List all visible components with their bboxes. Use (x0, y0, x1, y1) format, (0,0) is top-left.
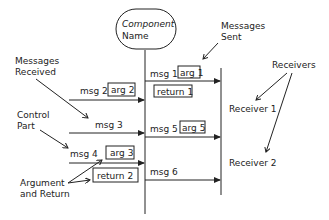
messages-sent-line1: Messages (221, 21, 265, 31)
argument-return-line1: Argument (20, 178, 65, 188)
arg2-label: arg 2 (111, 85, 134, 95)
arg3-label: arg 3 (110, 148, 133, 158)
messages-received-line1: Messages (15, 56, 59, 66)
component-name-line1: Component (122, 19, 175, 29)
receivers-label: Receivers (272, 60, 316, 70)
return1-label: return 1 (157, 87, 193, 97)
component-name-line2: Name (122, 31, 149, 41)
msg1-label: msg 1 (150, 69, 178, 79)
control-part-line2: Part (17, 121, 35, 131)
msg4-label: msg 4 (70, 149, 98, 159)
msg3-label: msg 3 (95, 120, 123, 130)
messages-sent-line2: Sent (221, 32, 242, 42)
msg6-label: msg 6 (150, 167, 178, 177)
argument-return-line2: and Return (20, 189, 70, 199)
arg5-label: arg 5 (182, 123, 205, 133)
control-part-line1: Control (17, 110, 50, 120)
return2-label: return 2 (97, 171, 133, 181)
component-diagram: Component Name msg 1 arg 1 return 1 msg … (0, 0, 329, 220)
msg5-label: msg 5 (150, 124, 178, 134)
arg1-label: arg 1 (180, 68, 203, 78)
receiver-2-label: Receiver 2 (229, 158, 277, 168)
msg2-label: msg 2 (80, 86, 108, 96)
component-node: Component Name (116, 9, 176, 49)
receiver-1-label: Receiver 1 (229, 104, 277, 114)
messages-received-line2: Received (15, 67, 56, 77)
